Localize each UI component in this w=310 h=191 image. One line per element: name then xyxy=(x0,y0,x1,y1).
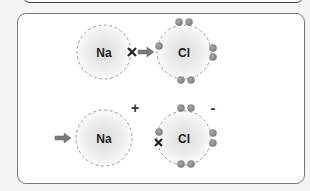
stage2-arrow-icon xyxy=(55,133,71,143)
transfer-arrow-icon xyxy=(138,47,154,57)
positive-charge: + xyxy=(131,100,139,116)
na-symbol: Na xyxy=(96,46,112,60)
stage1-cl-atom: Cl xyxy=(155,18,217,84)
stage2-cl-ion: Cl - xyxy=(155,99,217,168)
stage2-na-ion: Na + xyxy=(76,100,139,166)
na-ion-symbol: Na xyxy=(96,132,112,146)
ionic-bond-diagram: Na Cl Na + Cl - xyxy=(0,0,310,191)
negative-charge: - xyxy=(211,99,216,116)
cl-symbol: Cl xyxy=(178,46,190,60)
cl-ion-symbol: Cl xyxy=(178,132,190,146)
stage1-na-atom: Na xyxy=(77,25,131,79)
